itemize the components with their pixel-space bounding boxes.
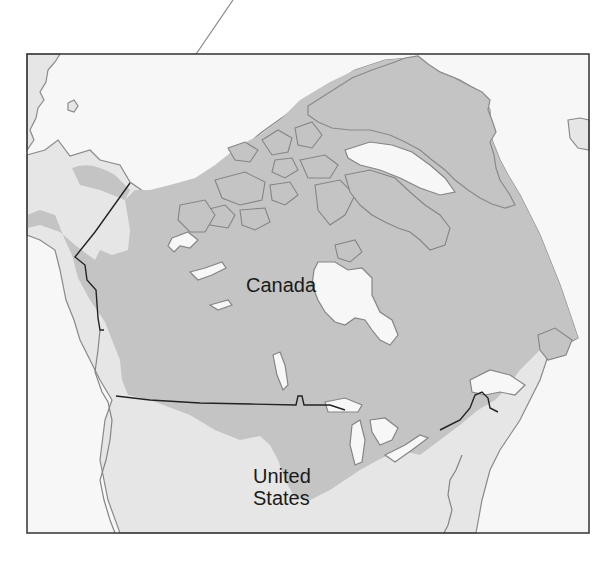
country-label-canada: Canada: [246, 274, 316, 296]
us-label-line1: United: [253, 465, 311, 487]
country-label-united-states: United States: [253, 465, 311, 509]
us-label-line2: States: [253, 487, 311, 509]
